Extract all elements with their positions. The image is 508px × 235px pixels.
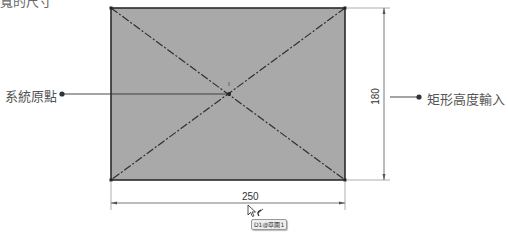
height-dimension-value[interactable]: 180 xyxy=(370,88,381,105)
origin-callout-dot xyxy=(59,91,64,96)
dimension-name-tooltip: D1@草圖1 xyxy=(251,219,287,230)
arrowhead-icon xyxy=(383,174,386,180)
arrowhead-icon xyxy=(111,202,117,205)
height-callout-dot xyxy=(416,94,421,99)
pointer-with-dimension-cursor-icon xyxy=(247,204,269,220)
origin-callout-label: 系統原點 xyxy=(5,86,57,105)
width-dimension-value[interactable]: 250 xyxy=(242,191,259,202)
arrowhead-icon xyxy=(383,8,386,14)
arrowhead-icon xyxy=(339,202,345,205)
height-input-callout-label: 矩形高度輸入 xyxy=(427,89,505,108)
